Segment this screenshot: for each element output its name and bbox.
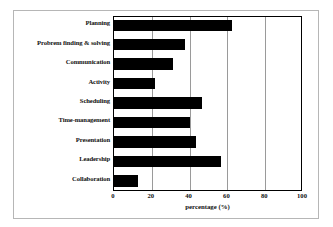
bar <box>113 175 138 186</box>
bar-row <box>113 113 302 132</box>
bar-row <box>113 133 302 152</box>
bars-container <box>113 16 302 191</box>
category-label: Presentation <box>14 136 110 143</box>
x-tick-label-20: 20 <box>148 192 155 199</box>
category-label: Time-management <box>14 116 110 123</box>
bar-row <box>113 16 302 35</box>
bar <box>113 156 221 167</box>
bar-row <box>113 55 302 74</box>
x-tick-label-0: 0 <box>111 192 114 199</box>
x-tick-label-100: 100 <box>297 192 307 199</box>
category-label: Planning <box>14 19 110 26</box>
x-tick-label-60: 60 <box>223 192 230 199</box>
bar <box>113 20 232 31</box>
bar-row <box>113 94 302 113</box>
bar <box>113 136 196 147</box>
bar-chart-figure: PlanningProbrem finding & solvingCommuni… <box>0 0 333 227</box>
bar <box>113 78 155 89</box>
x-axis-title: percentage (%) <box>113 203 302 210</box>
bar <box>113 39 185 50</box>
category-label: Activity <box>14 78 110 85</box>
category-label: Probrem finding & solving <box>14 39 110 46</box>
bar <box>113 97 202 108</box>
bar-row <box>113 172 302 191</box>
category-axis-labels: PlanningProbrem finding & solvingCommuni… <box>14 16 110 191</box>
x-axis-tick-labels: 020406080100 <box>113 192 302 203</box>
category-label: Communication <box>14 58 110 65</box>
bar-row <box>113 152 302 171</box>
category-label: Scheduling <box>14 97 110 104</box>
bar-row <box>113 74 302 93</box>
category-label: Leadership <box>14 155 110 162</box>
category-label: Collaboration <box>14 175 110 182</box>
bar-row <box>113 35 302 54</box>
x-tick-label-40: 40 <box>185 192 192 199</box>
bar <box>113 117 190 128</box>
x-tick-label-80: 80 <box>261 192 268 199</box>
bar <box>113 58 173 69</box>
